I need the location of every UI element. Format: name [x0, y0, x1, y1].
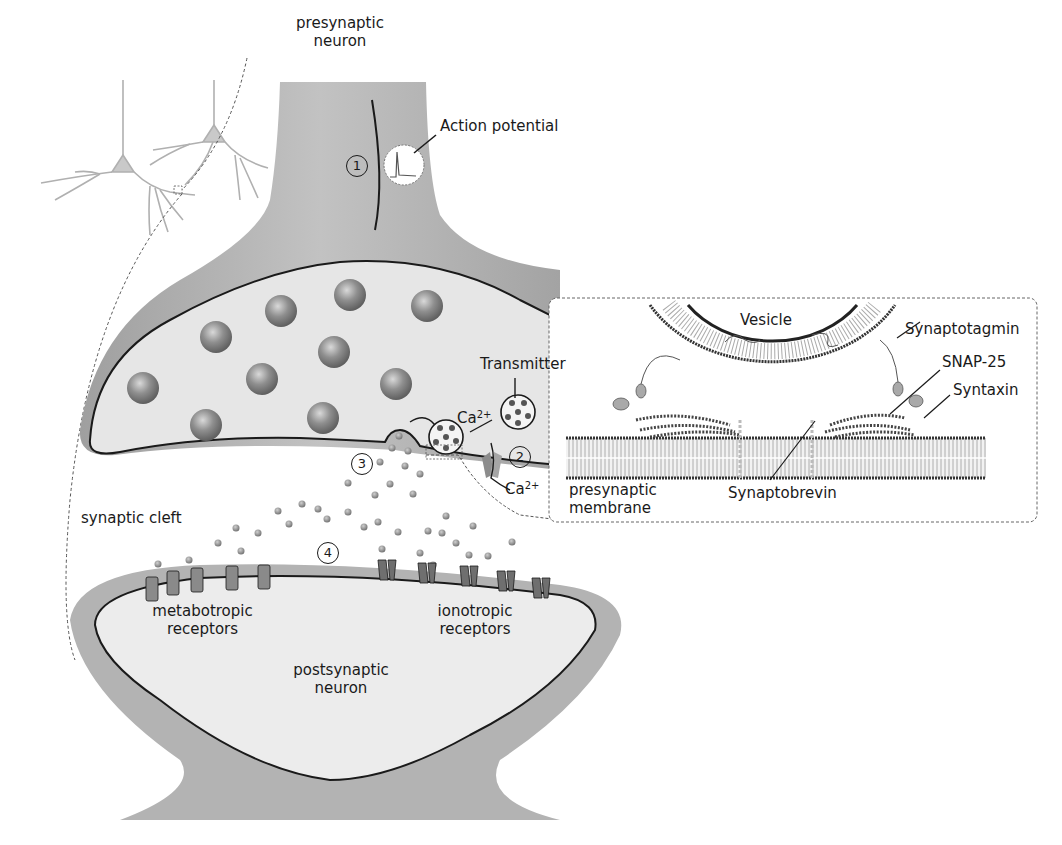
- membrane-label-line2: membrane: [569, 499, 657, 517]
- step-2-badge: 2: [509, 446, 531, 468]
- ionotropic-receptors-label: ionotropic receptors: [420, 602, 530, 638]
- calcium-label-lower: Ca2+: [505, 480, 539, 498]
- presynaptic-label-line1: presynaptic: [295, 14, 385, 32]
- presynaptic-neuron-label: presynaptic neuron: [295, 14, 385, 50]
- synapse-diagram: presynaptic neuron Action potential 1 2 …: [0, 0, 1062, 845]
- action-potential-label: Action potential: [440, 117, 558, 135]
- postsynaptic-label-line2: neuron: [286, 679, 396, 697]
- postsynaptic-neuron-label: postsynaptic neuron: [286, 661, 396, 697]
- calcium-upper-charge: 2+: [477, 409, 492, 420]
- calcium-label-upper-text: Ca: [457, 409, 477, 427]
- step-1-badge: 1: [346, 155, 368, 177]
- synaptic-cleft-label: synaptic cleft: [81, 509, 182, 527]
- postsynaptic-label-line1: postsynaptic: [286, 661, 396, 679]
- membrane-label-line1: presynaptic: [569, 481, 657, 499]
- vesicle-label: Vesicle: [740, 311, 792, 329]
- calcium-lower-charge: 2+: [525, 480, 540, 491]
- step-4-badge: 4: [317, 542, 339, 564]
- synaptotagmin-label: Synaptotagmin: [905, 320, 1020, 338]
- metabotropic-label-line2: receptors: [140, 620, 265, 638]
- calcium-label-upper: Ca2+: [457, 409, 491, 427]
- ionotropic-label-line1: ionotropic: [420, 602, 530, 620]
- action-potential-inset: [384, 145, 424, 185]
- metabotropic-label-line1: metabotropic: [140, 602, 265, 620]
- presynaptic-label-line2: neuron: [295, 32, 385, 50]
- ionotropic-label-line2: receptors: [420, 620, 530, 638]
- metabotropic-receptors-label: metabotropic receptors: [140, 602, 265, 638]
- step-3-badge: 3: [351, 453, 373, 475]
- syntaxin-label: Syntaxin: [953, 381, 1019, 399]
- presynaptic-membrane-label: presynaptic membrane: [569, 481, 657, 517]
- calcium-label-lower-text: Ca: [505, 480, 525, 498]
- transmitter-vesicle-free: [501, 395, 535, 429]
- transmitter-label: Transmitter: [480, 355, 566, 373]
- snap25-label: SNAP-25: [942, 353, 1006, 371]
- synaptobrevin-label: Synaptobrevin: [728, 484, 837, 502]
